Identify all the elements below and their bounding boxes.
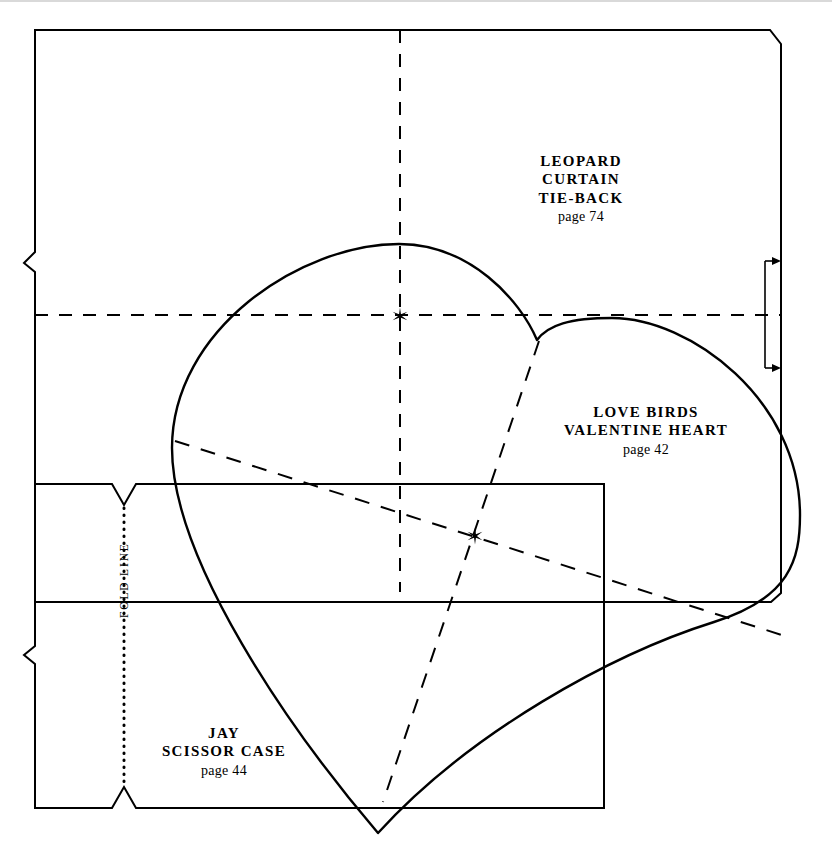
label-love-birds-valentine-heart: LOVE BIRDS VALENTINE HEART page 42 (535, 403, 757, 458)
label-fold-line: FOLD LINE (118, 498, 140, 618)
arrow-head-top-icon (772, 257, 781, 265)
pattern-sheet: LEOPARD CURTAIN TIE-BACK page 74 LOVE BI… (0, 0, 832, 845)
label-lovebirds-line2: VALENTINE HEART (535, 421, 757, 439)
arrow-head-bottom-icon (772, 364, 781, 372)
label-leopard-line3: TIE-BACK (481, 189, 681, 207)
label-lovebirds-page: page 42 (535, 441, 757, 458)
label-jay-line1: JAY (124, 724, 324, 742)
label-jay-scissor-case: JAY SCISSOR CASE page 44 (124, 724, 324, 779)
label-leopard-line2: CURTAIN (481, 170, 681, 188)
label-jay-line2: SCISSOR CASE (124, 742, 324, 760)
label-leopard-curtain-tieback: LEOPARD CURTAIN TIE-BACK page 74 (481, 152, 681, 225)
label-leopard-line1: LEOPARD (481, 152, 681, 170)
diagonal-guide-long (175, 441, 791, 638)
label-lovebirds-line1: LOVE BIRDS (535, 403, 757, 421)
label-jay-page: page 44 (124, 762, 324, 779)
label-leopard-page: page 74 (481, 208, 681, 225)
diagonal-guide-short (383, 341, 539, 802)
